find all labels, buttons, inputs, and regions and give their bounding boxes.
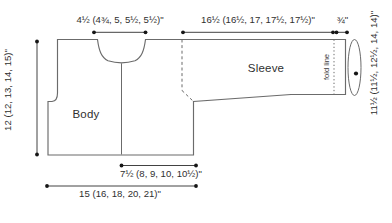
cuff-arrow-head (354, 71, 358, 75)
dim-front-width: 7½ (8, 9, 10, 10½)" (120, 164, 202, 179)
fold-line-label: fold line (322, 54, 331, 80)
dim-cuff-fold: ¾" (335, 14, 349, 35)
cuff-circumference-arrow (348, 40, 361, 96)
dim-neck-width-text: 4½ (4¾, 5, 5½, 5½)" (76, 14, 163, 25)
dim-neck-width: 4½ (4¾, 5, 5½, 5½)" (76, 14, 163, 35)
schematic-diagram: 4½ (4¾, 5, 5½, 5½)" 16½ (16½, 17, 17½, 1… (0, 0, 392, 223)
dim-body-length: 12 (12, 13, 14, 15)" (2, 40, 39, 157)
schematic-stage: 4½ (4¾, 5, 5½, 5½)" 16½ (16½, 17, 17½, 1… (0, 0, 392, 223)
dim-body-length-text: 12 (12, 13, 14, 15)" (2, 49, 13, 131)
dim-sleeve-circumference-text: 11½ (11½, 12½, 14, 14)" (368, 11, 379, 115)
dim-sleeve-length-text: 16½ (16½, 17, 17½, 17½)" (201, 14, 315, 25)
dim-body-width: 15 (16, 18, 20, 21)" (45, 184, 198, 199)
body-label: Body (72, 108, 99, 120)
dim-body-width-text: 15 (16, 18, 20, 21)" (79, 188, 161, 199)
dim-sleeve-length: 16½ (16½, 17, 17½, 17½)" (181, 14, 335, 35)
garment-outline (48, 40, 346, 156)
underarm-dashed-line (182, 91, 194, 102)
sleeve-label: Sleeve (248, 62, 284, 74)
dim-front-width-text: 7½ (8, 9, 10, 10½)" (120, 168, 202, 179)
dim-cuff-fold-text: ¾" (337, 14, 348, 25)
